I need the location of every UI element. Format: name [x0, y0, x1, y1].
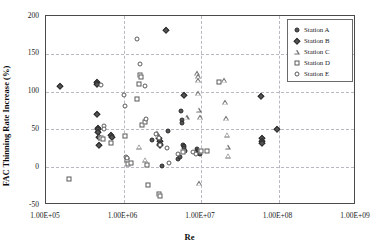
x-tick-label: 1.00E+08	[248, 211, 308, 220]
data-point-d	[216, 79, 221, 84]
data-point-d	[137, 82, 142, 87]
marker-glyph	[293, 37, 299, 43]
data-point-e	[143, 116, 148, 121]
data-point-d	[157, 193, 162, 198]
data-point-e	[143, 83, 148, 88]
marker-glyph	[294, 60, 299, 65]
data-point-e	[135, 36, 140, 41]
data-point-e	[153, 131, 158, 136]
legend-item-a[interactable]: Station A	[293, 24, 347, 35]
marker-glyph	[294, 27, 299, 32]
marker-glyph	[294, 71, 299, 76]
data-point-e	[123, 103, 128, 108]
data-point-c	[225, 144, 231, 149]
data-point-c	[221, 78, 227, 83]
y-tick-label: 50	[0, 124, 39, 133]
data-point-e	[99, 82, 104, 87]
marker-glyph	[294, 49, 300, 54]
data-point-e	[167, 160, 172, 165]
legend-item-c[interactable]: Station C	[293, 46, 347, 57]
data-point-e	[157, 135, 162, 140]
legend-item-d[interactable]: Station D	[293, 57, 347, 68]
legend-item-b[interactable]: Station B	[293, 35, 347, 46]
data-point-c	[195, 91, 201, 96]
data-point-a	[149, 137, 154, 142]
legend-label: Station C	[304, 48, 330, 55]
data-point-b	[258, 93, 264, 99]
data-point-b	[109, 134, 115, 140]
y-tick-label: -50	[0, 200, 39, 209]
legend-marker-d-icon	[293, 59, 300, 66]
data-point-b	[181, 92, 187, 98]
x-axis-title-text: Re	[185, 232, 195, 242]
y-tick-label: 100	[0, 86, 39, 95]
data-point-b	[96, 142, 102, 148]
data-point-c	[136, 144, 142, 149]
data-point-e	[102, 127, 107, 132]
data-point-d	[145, 183, 150, 188]
legend-marker-e-icon	[293, 70, 300, 77]
y-tick-label: 200	[0, 11, 39, 20]
y-tick-label: 0	[0, 162, 39, 171]
data-point-c	[196, 107, 202, 112]
legend-label: Station E	[304, 70, 329, 77]
data-point-c	[222, 100, 228, 105]
data-point-c	[195, 78, 201, 83]
data-point-e	[158, 142, 163, 147]
data-point-e	[175, 151, 180, 156]
data-point-e	[138, 62, 143, 67]
data-point-a	[179, 108, 184, 113]
data-point-d	[100, 137, 105, 142]
legend-item-e[interactable]: Station E	[293, 68, 347, 79]
legend-marker-b-icon	[293, 37, 300, 44]
data-point-a	[180, 120, 185, 125]
data-point-e	[121, 93, 126, 98]
data-point-b	[162, 26, 168, 32]
x-axis-title: Re	[0, 232, 379, 242]
gridline-vertical	[124, 16, 125, 203]
data-point-c	[225, 153, 231, 158]
data-point-d	[144, 162, 149, 167]
data-point-d	[205, 148, 210, 153]
data-point-e	[124, 156, 129, 161]
data-point-d	[180, 150, 185, 155]
x-tick-label: 1.00E+07	[170, 211, 230, 220]
data-point-b	[94, 110, 100, 116]
data-point-c	[224, 132, 230, 137]
legend-marker-a-icon	[293, 26, 300, 33]
gridline-horizontal	[46, 129, 354, 130]
legend-label: Station B	[304, 37, 330, 44]
data-point-c	[196, 181, 202, 186]
legend-label: Station A	[304, 26, 330, 33]
data-point-e	[164, 145, 169, 150]
data-point-a	[159, 163, 164, 168]
x-tick-label: 1.00E+06	[93, 211, 153, 220]
legend-label: Station D	[304, 59, 330, 66]
data-point-e	[193, 152, 198, 157]
data-point-d	[109, 141, 114, 146]
y-tick-label: 150	[0, 48, 39, 57]
x-tick-label: 1.00E+05	[15, 211, 75, 220]
data-point-a	[165, 128, 170, 133]
data-point-d	[123, 134, 128, 139]
data-point-d	[139, 75, 144, 80]
legend-marker-c-icon	[293, 48, 300, 55]
data-point-c	[197, 115, 203, 120]
scatter-chart: FAC Thinning Rate Increase (%) -50050100…	[0, 0, 379, 251]
data-point-d	[67, 177, 72, 182]
data-point-b	[56, 83, 62, 89]
data-point-c	[223, 116, 229, 121]
data-point-d	[135, 97, 140, 102]
legend: Station AStation BStation CStation DStat…	[287, 19, 353, 82]
data-point-c	[142, 157, 148, 162]
x-tick-label: 1.00E+09	[325, 211, 379, 220]
data-point-d	[198, 149, 203, 154]
gridline-horizontal	[46, 167, 354, 168]
gridline-vertical	[279, 16, 280, 203]
data-point-c	[184, 115, 190, 120]
data-point-d	[129, 161, 134, 166]
